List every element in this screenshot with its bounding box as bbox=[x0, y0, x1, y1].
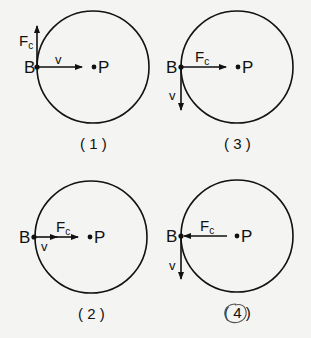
point-p bbox=[92, 65, 97, 70]
label-b: B bbox=[24, 58, 35, 77]
force-label: Fc bbox=[19, 32, 33, 51]
label-b: B bbox=[19, 228, 30, 247]
force-label: Fc bbox=[200, 217, 214, 236]
velocity-label: v bbox=[169, 258, 176, 273]
caption: ( 3 ) bbox=[224, 135, 251, 152]
caption: ( 1 ) bbox=[80, 135, 107, 152]
label-b: B bbox=[166, 227, 177, 246]
label-p: P bbox=[241, 227, 252, 246]
label-p: P bbox=[242, 58, 253, 77]
diagram-canvas: Fc B P v ( 1 ) Fc B P v ( 3 ) Fc B P v (… bbox=[0, 0, 311, 338]
caption: ( 2 ) bbox=[78, 305, 105, 322]
point-p bbox=[236, 65, 241, 70]
diagram-3: Fc B P v ( 3 ) bbox=[166, 11, 293, 152]
diagram-2: Fc B P v ( 2 ) bbox=[19, 181, 147, 322]
label-p: P bbox=[94, 228, 105, 247]
diagram-4: Fc B P v ( 4 ) bbox=[166, 180, 293, 323]
velocity-label: v bbox=[55, 52, 62, 67]
point-p bbox=[235, 234, 240, 239]
force-label: Fc bbox=[195, 48, 209, 67]
velocity-label: v bbox=[169, 88, 176, 103]
label-b: B bbox=[166, 58, 177, 77]
label-p: P bbox=[98, 58, 109, 77]
diagram-1: Fc B P v ( 1 ) bbox=[19, 11, 149, 152]
force-label: Fc bbox=[56, 218, 70, 237]
point-p bbox=[88, 235, 93, 240]
velocity-label: v bbox=[41, 239, 48, 254]
